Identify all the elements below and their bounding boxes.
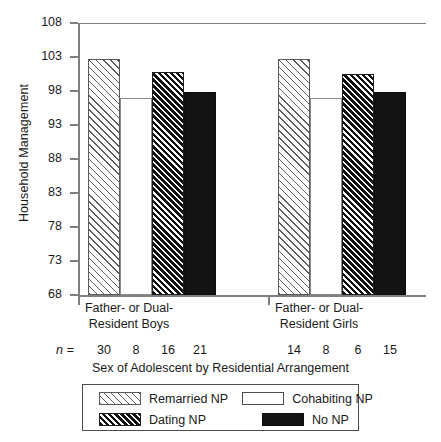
y-tick-label: 88	[0, 152, 62, 164]
group-label-boys-line1: Father- or Dual-	[34, 301, 224, 317]
y-tick-label: 108	[0, 16, 62, 28]
y-tick-label: 78	[0, 220, 62, 232]
x-axis-line	[78, 295, 426, 297]
x-axis-title: Sex of Adolescent by Residential Arrange…	[0, 361, 441, 375]
group-label-boys: Father- or Dual- Resident Boys	[34, 301, 224, 332]
legend-swatch-dating-icon	[99, 413, 141, 426]
y-tick-mark	[70, 56, 78, 57]
y-tick-mark	[70, 124, 78, 125]
legend-swatch-remarried-icon	[99, 392, 141, 405]
group-label-girls: Father- or Dual- Resident Girls	[224, 301, 414, 332]
group-label-boys-line2: Resident Boys	[34, 317, 224, 333]
y-tick-label: 98	[0, 84, 62, 96]
chart-figure: Household Management 6873788388939810310…	[0, 0, 441, 442]
legend-item-cohabiting: Cohabiting NP	[242, 392, 373, 406]
y-tick-label: 68	[0, 288, 62, 300]
legend-label-nonp: No NP	[312, 413, 349, 427]
legend-label-cohabiting: Cohabiting NP	[292, 392, 373, 406]
bar-cohabiting-group1	[120, 98, 152, 295]
bar-nonp-group2	[374, 92, 406, 295]
group-label-girls-line1: Father- or Dual-	[224, 301, 414, 317]
y-tick-mark	[70, 158, 78, 159]
legend-label-dating: Dating NP	[149, 413, 206, 427]
n-value: 15	[370, 343, 410, 357]
legend-swatch-nonp-icon	[262, 413, 304, 426]
n-value: 21	[180, 343, 220, 357]
y-tick-mark	[70, 226, 78, 227]
y-tick-label: 73	[0, 254, 62, 266]
legend-item-dating: Dating NP	[99, 413, 206, 427]
bar-remarried-group1	[88, 59, 120, 295]
y-tick-label: 93	[0, 118, 62, 130]
y-tick-label: 83	[0, 186, 62, 198]
chart-legend: Remarried NP Cohabiting NP Dating NP No …	[82, 384, 359, 431]
y-tick-mark	[70, 192, 78, 193]
y-tick-mark	[70, 22, 78, 23]
legend-row-2: Dating NP No NP	[83, 409, 358, 430]
legend-item-nonp: No NP	[262, 413, 349, 427]
legend-row-1: Remarried NP Cohabiting NP	[83, 388, 358, 409]
y-tick-label: 103	[0, 50, 62, 62]
y-tick-mark	[70, 260, 78, 261]
y-tick-mark	[70, 90, 78, 91]
bar-dating-group1	[152, 72, 184, 295]
legend-swatch-cohabiting-icon	[242, 392, 284, 405]
bar-dating-group2	[342, 74, 374, 295]
n-prefix-label: n =	[56, 343, 74, 357]
plot-area	[78, 23, 426, 295]
bar-nonp-group1	[184, 92, 216, 295]
bar-cohabiting-group2	[310, 98, 342, 295]
legend-label-remarried: Remarried NP	[149, 392, 228, 406]
group-label-girls-line2: Resident Girls	[224, 317, 414, 333]
y-tick-mark	[70, 294, 78, 295]
legend-item-remarried: Remarried NP	[99, 392, 228, 406]
bar-remarried-group2	[278, 59, 310, 295]
